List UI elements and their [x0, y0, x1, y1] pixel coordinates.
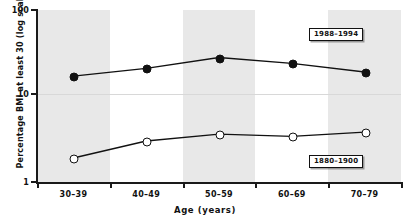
chart-figure: Percentage BMI at least 30 (log scale) 1… [0, 0, 410, 219]
x-tick [255, 182, 257, 188]
x-tick-label-1: 30–39 [37, 190, 110, 199]
x-axis-title: Age (years) [0, 205, 410, 215]
data-point [361, 69, 370, 78]
x-tick [401, 182, 403, 188]
y-tick-label-1: 1 [0, 178, 29, 187]
x-tick-label-4: 60–69 [255, 190, 328, 199]
y-axis-line [36, 9, 38, 183]
x-tick [110, 182, 112, 188]
data-point [143, 65, 152, 74]
data-point [70, 155, 79, 164]
data-point [288, 133, 297, 142]
y-tick-label-100: 100 [0, 6, 29, 15]
x-tick [328, 182, 330, 188]
data-point [361, 129, 370, 138]
data-point [216, 131, 225, 140]
y-axis-title: Percentage BMI at least 30 (log scale) [16, 1, 25, 169]
x-tick [37, 182, 39, 188]
data-point [288, 60, 297, 69]
data-point [216, 54, 225, 63]
x-tick [183, 182, 185, 188]
x-tick-label-2: 40–49 [110, 190, 183, 199]
x-axis-line [36, 182, 402, 184]
y-tick-label-10: 10 [0, 90, 29, 99]
data-point [70, 73, 79, 82]
x-tick-label-5: 70–79 [328, 190, 401, 199]
series-label-upper: 1988–1994 [309, 28, 363, 41]
plot-area: 1988–1994 1880–1900 [37, 10, 401, 182]
x-tick-label-3: 50–59 [183, 190, 256, 199]
data-point [143, 137, 152, 146]
series-label-lower: 1880–1900 [309, 155, 363, 168]
